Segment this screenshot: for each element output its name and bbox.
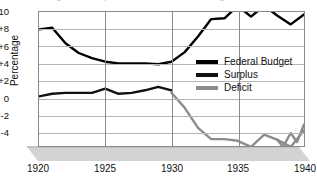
legend-item-surplus: Surplus xyxy=(196,68,292,81)
legend-item-federal-budget: Federal Budget xyxy=(196,55,292,68)
x-tick-0: 1920 xyxy=(16,163,60,174)
y-axis-label: Percentage xyxy=(9,21,20,101)
x-tick-2: 1930 xyxy=(150,163,194,174)
y-tick-2: +6 xyxy=(0,42,9,52)
y-tick-1: +8 xyxy=(0,24,9,34)
x-tick-4: 1940 xyxy=(283,163,317,174)
legend-swatch-federal-budget xyxy=(196,60,218,64)
page-title: Federal Budget and Surplus or Deficit as… xyxy=(0,0,317,2)
gridline-1930 xyxy=(172,12,173,146)
chart-figure: Federal Budget and Surplus or Deficit as… xyxy=(0,0,317,184)
legend-swatch-surplus xyxy=(196,73,218,77)
chart-legend: Federal Budget Surplus Deficit xyxy=(196,55,292,94)
series-deficit xyxy=(172,93,305,146)
chart-title-clipped: Federal Budget and Surplus or Deficit as… xyxy=(0,0,317,2)
chart-floor-shadow xyxy=(27,147,310,161)
y-tick-5: 0 xyxy=(0,94,9,104)
legend-item-deficit: Deficit xyxy=(196,81,292,94)
x-tick-3: 1935 xyxy=(216,163,260,174)
x-tick-1: 1925 xyxy=(83,163,127,174)
legend-label-surplus: Surplus xyxy=(224,70,258,80)
legend-label-federal-budget: Federal Budget xyxy=(224,57,292,67)
y-tick-7: -4 xyxy=(0,128,9,138)
legend-label-deficit: Deficit xyxy=(224,83,252,93)
legend-swatch-deficit xyxy=(196,86,218,90)
y-tick-0: +10 xyxy=(0,7,9,17)
y-tick-4: +2 xyxy=(0,76,9,86)
gridline-1925 xyxy=(105,12,106,146)
y-tick-6: -2 xyxy=(0,111,9,121)
y-tick-3: +4 xyxy=(0,59,9,69)
